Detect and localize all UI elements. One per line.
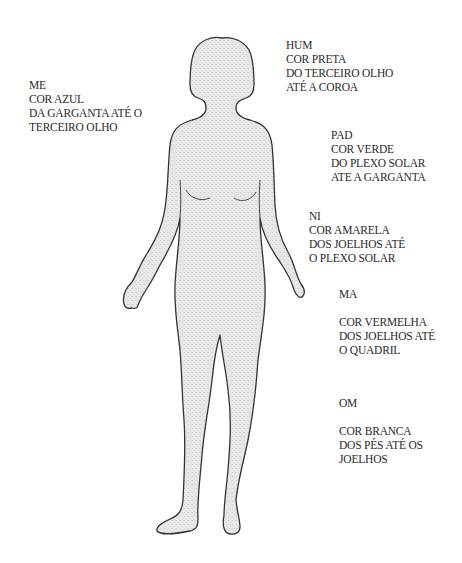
range-line-2: ATÉ A COROA [286, 80, 393, 94]
color-name: COR VERDE [331, 142, 426, 156]
color-name: COR BRANCA [339, 424, 423, 438]
range-line-1: DA GARGANTA ATÉ O [29, 106, 142, 120]
body-outline [123, 38, 304, 535]
range-line-2: TERCEIRO OLHO [29, 120, 142, 134]
mantra-title: MA [339, 287, 435, 301]
label-hum: HUM COR PRETA DO TERCEIRO OLHO ATÉ A COR… [286, 38, 393, 94]
range-line-2: ATE A GARGANTA [331, 170, 426, 184]
label-me: ME COR AZUL DA GARGANTA ATÉ O TERCEIRO O… [29, 78, 142, 134]
color-name: COR VERMELHA [339, 315, 435, 329]
mantra-title: HUM [286, 38, 393, 52]
label-om: OM COR BRANCA DOS PÉS ATÉ OS JOELHOS [339, 396, 423, 466]
mantra-title: NI [309, 209, 405, 223]
range-line-1: DOS JOELHOS ATÉ [309, 237, 405, 251]
mantra-title: OM [339, 396, 423, 410]
range-line-2: O QUADRIL [339, 343, 435, 357]
range-line-1: DOS PÉS ATÉ OS [339, 438, 423, 452]
label-ni: NI COR AMARELA DOS JOELHOS ATÉ O PLEXO S… [309, 209, 405, 265]
range-line-1: DO TERCEIRO OLHO [286, 66, 393, 80]
color-name: COR AMARELA [309, 223, 405, 237]
range-line-2: JOELHOS [339, 452, 423, 466]
color-name: COR AZUL [29, 92, 142, 106]
label-pad: PAD COR VERDE DO PLEXO SOLAR ATE A GARGA… [331, 128, 426, 184]
range-line-1: DOS JOELHOS ATÉ [339, 329, 435, 343]
range-line-1: DO PLEXO SOLAR [331, 156, 426, 170]
color-name: COR PRETA [286, 52, 393, 66]
mantra-title: PAD [331, 128, 426, 142]
mantra-title: ME [29, 78, 142, 92]
range-line-2: O PLEXO SOLAR [309, 251, 405, 265]
label-ma: MA COR VERMELHA DOS JOELHOS ATÉ O QUADRI… [339, 287, 435, 357]
